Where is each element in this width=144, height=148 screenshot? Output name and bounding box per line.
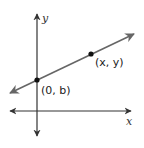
y-intercept-point [34, 77, 39, 82]
y-intercept-label: (0, b) [41, 84, 71, 97]
general-point-label: (x, y) [95, 56, 124, 69]
x-axis-label: x [126, 115, 133, 128]
coordinate-plane: y x (0, b) (x, y) [0, 0, 144, 148]
y-axis-label: y [41, 12, 49, 25]
general-point [88, 51, 93, 56]
